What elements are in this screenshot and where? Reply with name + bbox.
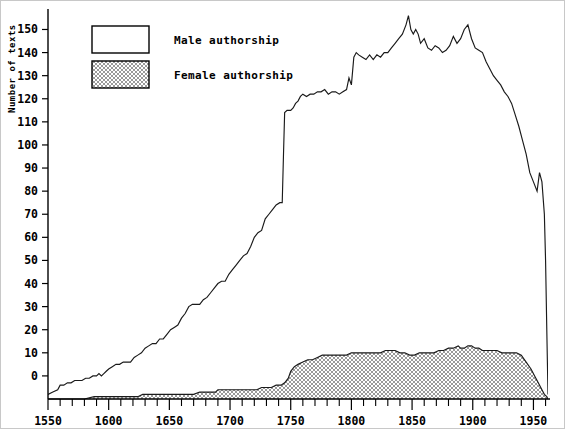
x-tick-label: 1750 <box>277 414 305 428</box>
chart-figure: 0102030405060708090100110120130140150 15… <box>0 0 565 429</box>
y-tick-label: 90 <box>24 161 38 175</box>
y-tick-label: 20 <box>24 323 38 337</box>
y-axis-ticks: 0102030405060708090100110120130140150 <box>17 22 48 382</box>
y-tick-label: 70 <box>24 207 38 221</box>
y-tick-label: 80 <box>24 184 38 198</box>
y-tick-label: 30 <box>24 300 38 314</box>
x-tick-label: 1700 <box>216 414 244 428</box>
y-tick-label: 60 <box>24 230 38 244</box>
legend-label: Male authorship <box>174 34 279 47</box>
y-tick-label: 10 <box>24 346 38 360</box>
y-tick-label: 40 <box>24 277 38 291</box>
y-axis-title: Number of texts <box>7 24 17 113</box>
x-tick-label: 1550 <box>34 414 62 428</box>
x-tick-label: 1800 <box>338 414 366 428</box>
y-tick-label: 120 <box>17 92 38 106</box>
authorship-over-time-chart: 0102030405060708090100110120130140150 15… <box>1 1 565 429</box>
x-tick-label: 1950 <box>520 414 548 428</box>
x-tick-label: 1850 <box>398 414 426 428</box>
legend-swatch-male <box>92 26 149 53</box>
legend-swatch-female <box>92 61 149 88</box>
x-tick-label: 1600 <box>95 414 123 428</box>
y-tick-label: 100 <box>17 138 38 152</box>
y-tick-label: 150 <box>17 22 38 36</box>
legend-label: Female authorship <box>174 69 293 82</box>
legend-item: Male authorship <box>92 26 279 53</box>
y-tick-label: 130 <box>17 69 38 83</box>
y-tick-label: 110 <box>17 115 38 129</box>
y-tick-label: 140 <box>17 46 38 60</box>
chart-legend: Male authorshipFemale authorship <box>92 26 293 88</box>
x-tick-label: 1900 <box>459 414 487 428</box>
y-tick-label: 50 <box>24 253 38 267</box>
legend-item: Female authorship <box>92 61 293 88</box>
x-tick-label: 1650 <box>156 414 184 428</box>
y-tick-label: 0 <box>31 369 38 383</box>
x-axis-ticks: 155016001650170017501800185019001950 <box>34 399 547 428</box>
